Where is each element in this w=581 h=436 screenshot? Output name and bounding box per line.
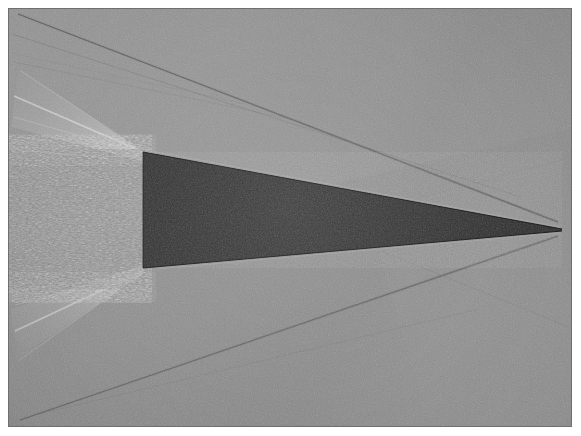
film-grain (9, 9, 571, 426)
schlieren-figure (0, 0, 581, 436)
photograph-plate (9, 9, 571, 426)
